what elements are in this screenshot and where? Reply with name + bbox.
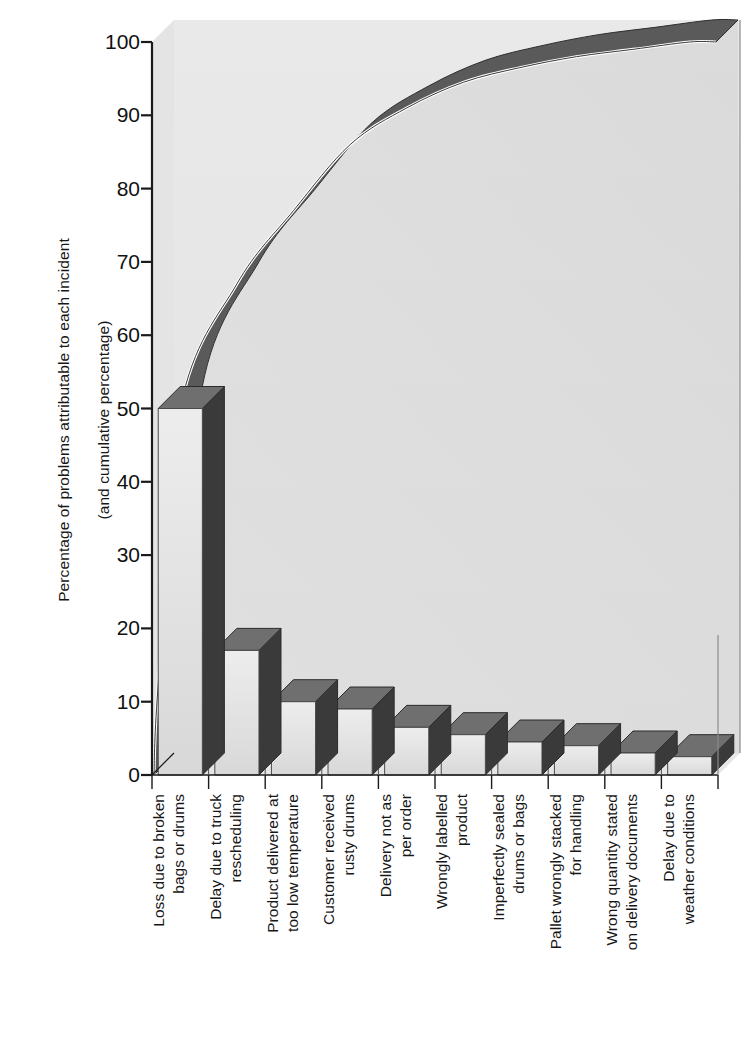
x-category-label-7: Pallet wrongly stacked for handling: [546, 794, 586, 1014]
x-category-label-2: Product delivered at too low temperature: [263, 794, 303, 1014]
y-tick-label-100: 100: [60, 31, 140, 52]
y-tick-label-10: 10: [60, 691, 140, 712]
y-tick-label-60: 60: [60, 324, 140, 345]
y-tick-label-90: 90: [60, 104, 140, 125]
y-tick-label-40: 40: [60, 471, 140, 492]
y-tick-label-70: 70: [60, 251, 140, 272]
bar-0: [158, 387, 224, 776]
y-tick-label-50: 50: [60, 398, 140, 419]
y-tick-label-20: 20: [60, 617, 140, 638]
x-category-label-8: Wrong quantity stated on delivery docume…: [602, 794, 642, 1014]
x-category-label-9: Delay due to weather conditions: [659, 794, 699, 1014]
bar-side-face-0: [202, 387, 224, 776]
bar-front-face-9: [668, 757, 712, 775]
pareto-chart: Percentage of problems attributable to e…: [0, 0, 749, 1052]
x-category-label-1: Delay due to truck rescheduling: [206, 794, 246, 1014]
bar-front-face-0: [158, 409, 202, 776]
y-tick-label-80: 80: [60, 178, 140, 199]
x-category-label-5: Wrongly labelled product: [432, 794, 472, 1014]
x-category-label-0: Loss due to broken bags or drums: [149, 794, 189, 1014]
y-tick-label-30: 30: [60, 544, 140, 565]
x-category-label-3: Customer received rusty drums: [319, 794, 359, 1014]
y-tick-label-0: 0: [60, 764, 140, 785]
bar-side-face-1: [259, 628, 281, 775]
x-category-label-4: Delivery not as per order: [376, 794, 416, 1014]
x-category-label-6: Imperfectly sealed drums or bags: [489, 794, 529, 1014]
